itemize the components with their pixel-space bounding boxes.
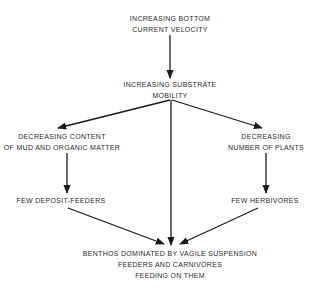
node-line: FEW HERBIVORES <box>231 195 299 206</box>
node-decreasing-mud-content: DECREASING CONTENT OF MUD AND ORGANIC MA… <box>4 131 120 153</box>
arrow-n2-n4 <box>172 100 262 128</box>
node-line: INCREASING SUBSTRATE <box>124 79 217 90</box>
node-line: CURRENT VELOCITY <box>130 24 210 35</box>
node-line: FEEDING ON THEM <box>83 270 257 281</box>
node-few-herbivores: FEW HERBIVORES <box>231 195 299 206</box>
node-line: FEW DEPOSIT-FEEDERS <box>17 195 106 206</box>
node-line: OF MUD AND ORGANIC MATTER <box>4 142 120 153</box>
node-line: BENTHOS DOMINATED BY VAGILE SUSPENSION <box>83 248 257 259</box>
node-line: INCREASING BOTTOM <box>130 13 210 24</box>
arrow-n5-n7 <box>68 208 164 244</box>
node-line: MOBILITY <box>124 90 217 101</box>
node-increasing-bottom-current-velocity: INCREASING BOTTOM CURRENT VELOCITY <box>130 13 210 35</box>
node-line: DECREASING <box>228 131 304 142</box>
node-line: DECREASING CONTENT <box>4 131 120 142</box>
arrow-n2-n3 <box>58 100 170 128</box>
node-line: NUMBER OF PLANTS <box>228 142 304 153</box>
node-benthos-dominated: BENTHOS DOMINATED BY VAGILE SUSPENSION F… <box>83 248 257 281</box>
node-decreasing-plants: DECREASING NUMBER OF PLANTS <box>228 131 304 153</box>
node-few-deposit-feeders: FEW DEPOSIT-FEEDERS <box>17 195 106 206</box>
node-line: FEEDERS AND CARNIVORES <box>83 259 257 270</box>
arrow-n6-n7 <box>180 208 258 244</box>
node-increasing-substrate-mobility: INCREASING SUBSTRATE MOBILITY <box>124 79 217 101</box>
